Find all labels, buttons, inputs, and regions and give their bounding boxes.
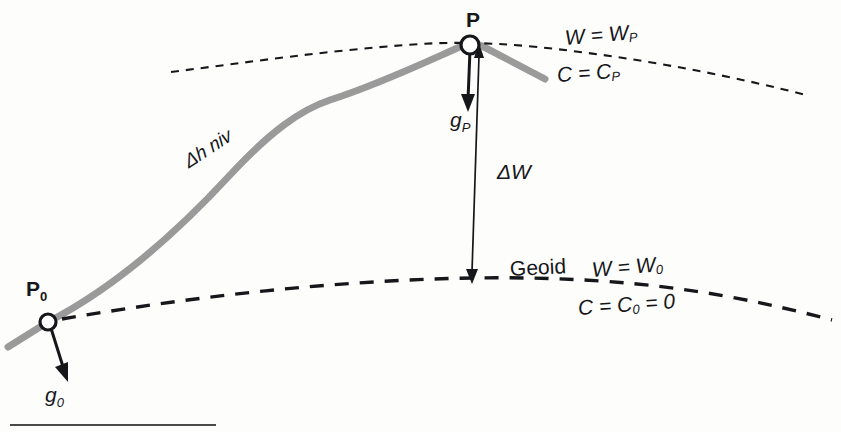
- label-point-p0: P0: [26, 277, 47, 304]
- point-marker-P: [461, 36, 479, 54]
- label-geoid: Geoid: [509, 254, 566, 281]
- diagram-graphics: [0, 0, 841, 432]
- point-marker-P0: [40, 314, 56, 330]
- label-c-equals-cp: C = CP: [556, 59, 621, 88]
- terrain-profile: [8, 44, 545, 347]
- gravity-vector-at-P0: [50, 325, 68, 382]
- geodesy-diagram: P P0 gP g0 ΔW Δh niv Geoid W = WP C = CP…: [0, 0, 841, 432]
- gravity-vector-at-P: [461, 50, 475, 112]
- geoid-surface: [62, 278, 832, 320]
- label-gravity-p0: g0: [45, 383, 64, 410]
- label-gravity-p: gP: [450, 108, 470, 135]
- label-delta-w: ΔW: [497, 160, 531, 184]
- label-point-p: P: [466, 8, 480, 32]
